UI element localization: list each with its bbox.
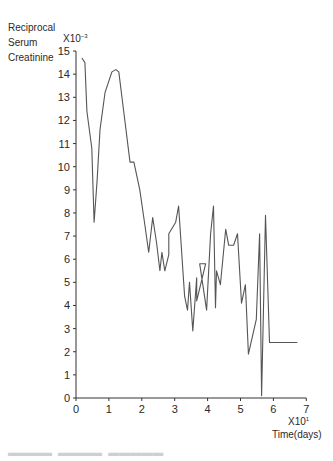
- x-tick-label: 5: [237, 403, 243, 415]
- data-line: [82, 58, 298, 396]
- x-tick-label: 4: [205, 403, 211, 415]
- x-tick-label: 0: [73, 403, 79, 415]
- y-tick-label: 2: [64, 346, 70, 358]
- y-tick-label: 15: [58, 45, 70, 57]
- y-tick-label: 1: [64, 369, 70, 381]
- y-tick-label: 0: [64, 392, 70, 404]
- figure-caption-cutoff: ▬▬▬▬ ▬▬▬▬ ▬▬▬▬▬: [8, 446, 163, 458]
- y-tick-label: 10: [58, 161, 70, 173]
- y-tick-label: 14: [58, 68, 70, 80]
- x-tick-label: 1: [106, 403, 112, 415]
- y-tick-label: 12: [58, 114, 70, 126]
- y-tick-label: 7: [64, 230, 70, 242]
- x-tick-label: 7: [303, 403, 309, 415]
- y-tick-label: 8: [64, 207, 70, 219]
- y-tick-label: 13: [58, 91, 70, 103]
- y-tick-label: 9: [64, 184, 70, 196]
- x-tick-label: 3: [172, 403, 178, 415]
- y-tick-label: 5: [64, 276, 70, 288]
- x-tick-label: 6: [270, 403, 276, 415]
- y-tick-label: 6: [64, 253, 70, 265]
- line-chart: 012345678910111213141501234567: [0, 0, 333, 461]
- y-tick-label: 3: [64, 323, 70, 335]
- y-tick-label: 4: [64, 299, 70, 311]
- x-tick-label: 2: [139, 403, 145, 415]
- y-tick-label: 11: [59, 138, 70, 150]
